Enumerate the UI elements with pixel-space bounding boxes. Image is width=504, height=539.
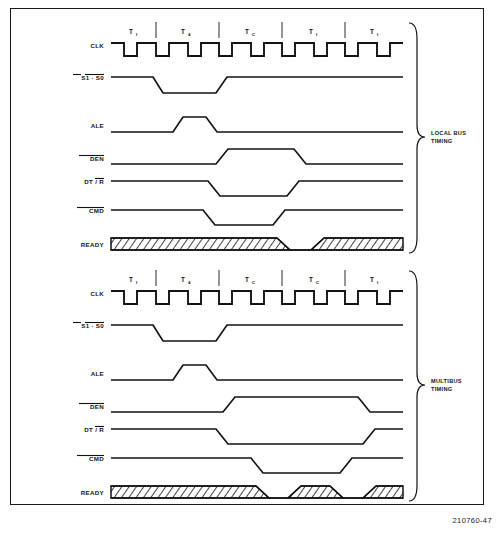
t-state-label: T bbox=[181, 276, 185, 283]
t-state-sub: 4 bbox=[188, 280, 191, 285]
signal-label-clk: CLK bbox=[90, 42, 104, 49]
t-state-sub: I bbox=[136, 32, 137, 37]
t-state-sub: C bbox=[252, 32, 256, 37]
t-state-label: T bbox=[245, 276, 249, 283]
t-state-labels: T I T 4 T C T I T I bbox=[129, 28, 378, 37]
waveform-clk-multibus bbox=[111, 291, 403, 304]
group-brace-local bbox=[409, 23, 425, 253]
group-label-line1: LOCAL BUS bbox=[431, 130, 466, 136]
waveform-dtr-local bbox=[111, 181, 403, 196]
group-label-line1: MULTIBUS bbox=[431, 378, 462, 384]
group-label-line2: TIMING bbox=[431, 386, 452, 392]
t-state-sub: I bbox=[136, 280, 137, 285]
waveform-dtr-multibus bbox=[111, 429, 403, 444]
t-state-sub: C bbox=[252, 280, 256, 285]
signal-overbars-multibus bbox=[73, 323, 104, 456]
t-state-label: T bbox=[370, 28, 374, 35]
signal-label-ale: ALE bbox=[91, 122, 104, 129]
waveform-clk-local bbox=[111, 43, 403, 56]
t-state-label: T bbox=[129, 276, 133, 283]
waveform-cmd-multibus bbox=[111, 458, 403, 473]
t-state-label: T bbox=[181, 28, 185, 35]
t-state-sub: C bbox=[316, 280, 320, 285]
t-state-sub: 4 bbox=[188, 32, 191, 37]
group-label-line2: TIMING bbox=[431, 138, 452, 144]
signal-label-ready: READY bbox=[81, 489, 105, 496]
figure-id-code: 210760-47 bbox=[453, 516, 492, 525]
t-state-label: T bbox=[309, 276, 313, 283]
waveform-den-local bbox=[111, 149, 403, 164]
signal-labels-local: CLK S1 · S0 ALE DEN DT / R CMD READY bbox=[81, 42, 105, 248]
figure-frame: T I T 4 T C T I T I CLK S1 · S0 ALE DEN … bbox=[10, 8, 484, 505]
timing-panel-multibus: T I T 4 T C T C T I CLK S1 · S0 ALE DEN … bbox=[11, 257, 483, 505]
timing-panel-local-bus: T I T 4 T C T I T I CLK S1 · S0 ALE DEN … bbox=[11, 9, 483, 257]
t-state-labels: T I T 4 T C T C T I bbox=[129, 276, 378, 285]
t-state-sub: I bbox=[316, 32, 317, 37]
signal-label-ale: ALE bbox=[91, 370, 104, 377]
group-brace-multibus bbox=[409, 271, 425, 501]
t-state-label: T bbox=[370, 276, 374, 283]
waveform-den-multibus bbox=[111, 397, 403, 412]
waveform-s1s0-local bbox=[111, 77, 403, 93]
t-state-label: T bbox=[245, 28, 249, 35]
waveform-ready-local bbox=[111, 238, 403, 250]
t-state-label: T bbox=[129, 28, 133, 35]
signal-label-clk: CLK bbox=[90, 290, 104, 297]
t-state-label: T bbox=[309, 28, 313, 35]
waveform-ale-multibus bbox=[111, 365, 403, 380]
waveform-s1s0-multibus bbox=[111, 325, 403, 341]
waveform-ready-multibus bbox=[111, 486, 403, 498]
waveform-ale-local bbox=[111, 117, 403, 132]
signal-label-ready: READY bbox=[81, 241, 105, 248]
figure-caption bbox=[0, 532, 504, 539]
t-state-sub: I bbox=[377, 280, 378, 285]
signal-labels-multibus: CLK S1 · S0 ALE DEN DT / R CMD READY bbox=[81, 290, 105, 496]
waveform-cmd-local bbox=[111, 210, 403, 225]
signal-label-s1s0: S1 · S0 bbox=[81, 74, 104, 81]
t-state-sub: I bbox=[377, 32, 378, 37]
signal-overbars-local bbox=[73, 75, 104, 208]
